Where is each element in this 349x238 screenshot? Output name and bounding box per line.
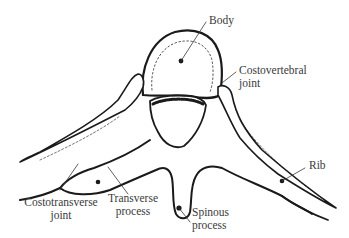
label-costovertebral-joint: Costovertebral joint <box>239 64 307 90</box>
label-costotransverse-joint: Costotransverse joint <box>16 196 106 222</box>
right-rib <box>218 86 336 208</box>
transverse-marker <box>96 180 101 185</box>
label-rib: Rib <box>309 159 326 172</box>
vertebra-diagram: Body Costovertebral joint Rib Costotrans… <box>0 0 349 238</box>
label-transverse-process: Transverse process <box>104 192 162 218</box>
left-rib <box>20 74 144 162</box>
vertebral-body-outline <box>142 30 222 98</box>
label-spinous-process: Spinous process <box>192 206 229 232</box>
label-body: Body <box>209 14 234 27</box>
